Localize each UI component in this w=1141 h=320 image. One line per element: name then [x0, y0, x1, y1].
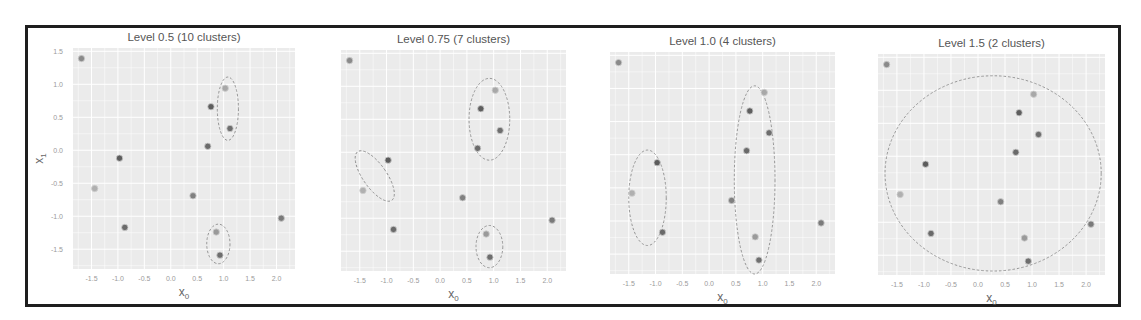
data-point [78, 55, 84, 61]
y-tick-label: 0.5 [53, 114, 63, 121]
data-point [897, 191, 903, 197]
x-tick-label: -0.5 [676, 280, 688, 287]
data-point [213, 229, 219, 235]
scatter-panel-2: Level 0.75 (7 clusters)-1.5-1.0-0.50.00.… [341, 33, 566, 303]
x-tick-label: 0.0 [704, 280, 714, 287]
cluster-levels-figure: Level 0.5 (10 clusters)-1.5-1.0-0.50.00.… [0, 0, 1141, 320]
x-tick-label: 1.5 [785, 280, 795, 287]
data-point [346, 57, 352, 63]
y-axis-label: x1 [32, 153, 48, 164]
data-point [659, 229, 665, 235]
data-point [752, 234, 758, 240]
x-tick-label: -0.5 [138, 275, 150, 282]
x-tick-label: 2.0 [272, 275, 282, 282]
scatter-panel-1: Level 0.5 (10 clusters)-1.5-1.0-0.50.00.… [32, 31, 295, 301]
x-tick-label: -1.0 [918, 281, 930, 288]
data-point [818, 220, 824, 226]
x-tick-label: -1.5 [891, 281, 903, 288]
scatter-panel-4: Level 1.5 (2 clusters)-1.5-1.0-0.50.00.5… [878, 37, 1105, 307]
data-point [190, 193, 196, 199]
data-point [743, 148, 749, 154]
data-point [766, 130, 772, 136]
data-point [1025, 258, 1031, 264]
data-point [1016, 110, 1022, 116]
data-point [1030, 91, 1036, 97]
data-point [459, 195, 465, 201]
data-point [360, 187, 366, 193]
data-point [474, 145, 480, 151]
x-tick-label: 2.0 [542, 277, 552, 284]
data-point [756, 257, 762, 263]
data-point [91, 185, 97, 191]
y-tick-label: 1.5 [53, 48, 63, 55]
data-point [747, 108, 753, 114]
data-point [1035, 131, 1041, 137]
data-point [997, 199, 1003, 205]
y-tick-label: -1.5 [51, 246, 63, 253]
data-point [390, 226, 396, 232]
x-axis-label: x0 [986, 291, 997, 307]
x-axis-label: x0 [448, 287, 459, 303]
data-point [728, 197, 734, 203]
panel-title: Level 1.5 (2 clusters) [938, 37, 1045, 49]
x-tick-label: 1.0 [219, 275, 229, 282]
x-tick-label: 2.0 [811, 280, 821, 287]
data-point [761, 89, 767, 95]
data-point [883, 61, 889, 67]
x-tick-label: -0.5 [945, 281, 957, 288]
x-tick-label: -1.5 [354, 277, 366, 284]
x-tick-label: -0.5 [407, 277, 419, 284]
data-point [549, 217, 555, 223]
data-point [487, 254, 493, 260]
x-tick-label: -1.0 [112, 275, 124, 282]
x-tick-label: -1.5 [623, 280, 635, 287]
x-tick-label: -1.0 [650, 280, 662, 287]
data-point [654, 159, 660, 165]
data-point [385, 157, 391, 163]
x-tick-label: 1.5 [1054, 281, 1064, 288]
data-point [227, 125, 233, 131]
x-tick-label: 1.0 [1027, 281, 1037, 288]
x-tick-label: 0.5 [731, 280, 741, 287]
x-tick-label: 0.0 [166, 275, 176, 282]
panel-title: Level 1.0 (4 clusters) [669, 35, 776, 47]
panel-title: Level 0.75 (7 clusters) [397, 33, 510, 45]
x-axis-label: x0 [179, 285, 190, 301]
y-tick-label: -1.0 [51, 213, 63, 220]
data-point [497, 127, 503, 133]
x-tick-label: 1.5 [516, 277, 526, 284]
x-tick-label: 0.0 [973, 281, 983, 288]
x-tick-label: 1.5 [245, 275, 255, 282]
y-tick-label: 1.0 [53, 81, 63, 88]
scatter-panel-3: Level 1.0 (4 clusters)-1.5-1.0-0.50.00.5… [610, 35, 835, 306]
data-point [222, 85, 228, 91]
data-point [116, 155, 122, 161]
data-point [208, 104, 214, 110]
data-point [483, 231, 489, 237]
x-tick-label: -1.5 [85, 275, 97, 282]
data-point [492, 87, 498, 93]
data-point [1013, 149, 1019, 155]
data-point [1088, 221, 1094, 227]
panel-title: Level 0.5 (10 clusters) [127, 31, 240, 43]
data-point [615, 59, 621, 65]
x-tick-label: -1.0 [381, 277, 393, 284]
y-tick-label: -0.5 [51, 180, 63, 187]
x-tick-label: 1.0 [758, 280, 768, 287]
x-tick-label: 0.0 [435, 277, 445, 284]
data-point [478, 106, 484, 112]
x-tick-label: 0.5 [462, 277, 472, 284]
data-point [629, 190, 635, 196]
data-point [928, 230, 934, 236]
data-point [278, 215, 284, 221]
x-tick-label: 0.5 [1000, 281, 1010, 288]
y-tick-label: 0.0 [53, 147, 63, 154]
x-axis-label: x0 [717, 290, 728, 306]
x-tick-label: 1.0 [489, 277, 499, 284]
data-point [922, 161, 928, 167]
data-point [122, 224, 128, 230]
x-tick-label: 2.0 [1081, 281, 1091, 288]
data-point [217, 252, 223, 258]
x-tick-label: 0.5 [192, 275, 202, 282]
data-point [205, 143, 211, 149]
